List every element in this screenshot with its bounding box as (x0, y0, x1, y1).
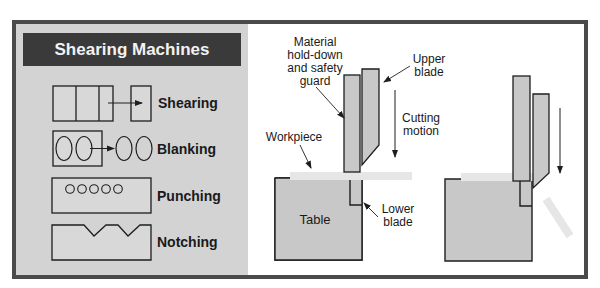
operation-label-blanking: Blanking (157, 141, 216, 157)
blanking-illustration (53, 131, 152, 166)
callout-line: blade (380, 216, 416, 229)
callout-cutting-motion: Cutting motion (400, 112, 442, 138)
shearing-illustration (53, 86, 151, 121)
shearing-machines-diagram: Shearing Machines (0, 0, 600, 288)
callout-line: blade (410, 66, 448, 79)
shear-before-cut (275, 66, 412, 260)
operation-label-shearing: Shearing (158, 95, 218, 111)
callout-lower-blade: Lower blade (380, 203, 416, 229)
punching-illustration (52, 178, 151, 213)
callout-hold-down-guard: Material hold-down and safety guard (284, 36, 346, 88)
notching-illustration (52, 225, 151, 260)
callout-upper-blade: Upper blade (410, 53, 448, 79)
operation-label-punching: Punching (157, 188, 221, 204)
table-label: Table (295, 213, 335, 226)
shear-after-cut (445, 76, 570, 261)
callout-workpiece: Workpiece (264, 131, 324, 144)
callout-line: guard (284, 75, 346, 88)
callout-line: motion (400, 125, 442, 138)
operation-label-notching: Notching (157, 234, 218, 250)
